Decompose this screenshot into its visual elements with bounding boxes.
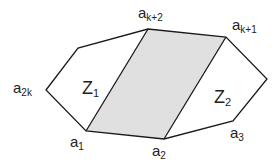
label-a-2k: a2k bbox=[13, 79, 33, 98]
label-a-2: a2 bbox=[152, 142, 166, 161]
polygon-diagram: ak+2 ak+1 a2k a1 a2 a3 Z1 Z2 bbox=[0, 0, 280, 168]
shaded-parallelogram bbox=[86, 29, 226, 139]
label-a-k-plus-1: ak+1 bbox=[232, 16, 257, 35]
label-a-k-plus-2: ak+2 bbox=[138, 4, 163, 23]
label-a-1: a1 bbox=[70, 133, 84, 152]
label-a-3: a3 bbox=[230, 124, 244, 143]
label-region-z2: Z2 bbox=[214, 87, 231, 108]
label-region-z1: Z1 bbox=[82, 78, 99, 99]
